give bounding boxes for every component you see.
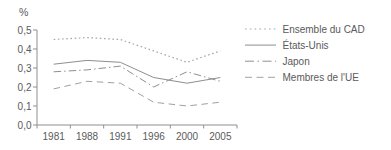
y-axis-tick-label: 0,1 — [18, 101, 32, 112]
series-line-membres-de-l-ue — [54, 81, 221, 106]
x-axis-tick-label: 1991 — [109, 131, 132, 142]
x-axis-tick-label: 1981 — [43, 131, 66, 142]
y-axis-tick-label: 0,4 — [18, 44, 32, 55]
series-line-etats-unis — [54, 60, 221, 83]
x-axis-tick-label: 1988 — [76, 131, 99, 142]
x-axis-tick-label: 2000 — [176, 131, 199, 142]
y-axis-tick-label: 0,3 — [18, 63, 32, 74]
chart-generated-content: 0,50,40,30,20,10,01981198819911996200020… — [18, 24, 365, 142]
x-axis-tick-label: 1996 — [143, 131, 166, 142]
axes-lines — [37, 30, 237, 125]
y-axis-unit-label: % — [19, 6, 28, 18]
y-axis-tick-label: 0,5 — [18, 25, 32, 36]
oda-line-chart-figure: % 0,50,40,30,20,10,019811988199119962000… — [0, 0, 391, 150]
legend-label-membres-de-l-ue: Membres de l'UE — [283, 72, 360, 83]
legend-label-etats-unis: États-Unis — [283, 39, 329, 51]
chart-canvas: % 0,50,40,30,20,10,019811988199119962000… — [0, 0, 391, 150]
legend-label-japon: Japon — [283, 56, 310, 67]
series-line-japon — [54, 66, 221, 87]
legend-label-ensemble-du-cad: Ensemble du CAD — [283, 24, 365, 35]
y-axis-tick-label: 0,2 — [18, 82, 32, 93]
series-line-ensemble-du-cad — [54, 38, 221, 63]
x-axis-tick-label: 2005 — [209, 131, 232, 142]
y-axis-tick-label: 0,0 — [18, 120, 32, 131]
